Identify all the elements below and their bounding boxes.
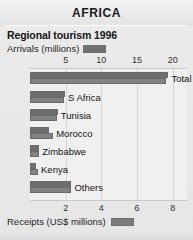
page-title: AFRICA [0,6,193,20]
card-header: AFRICA [0,0,193,26]
chart-row-label: Zimbabwe [42,146,86,157]
bar-receipts [30,151,39,157]
bar-receipts [30,115,57,121]
legend-arrivals-label: Arrivals (millions) [7,43,79,54]
chart-row: Others [30,181,187,195]
bar-receipts [30,78,166,84]
receipts-swatch-icon [111,218,134,226]
chart-row-label: Total [171,73,191,84]
card-footer-strip [0,231,193,240]
axis-top-tick: 15 [132,55,142,65]
axis-top-tick: 10 [96,55,106,65]
legend-receipts-label: Receipts (US$ millions) [7,216,106,227]
arrivals-swatch-icon [83,45,106,53]
axis-bottom-tick: 4 [99,203,104,213]
chart-row: Tunisia [30,109,187,123]
axis-top-tick: 5 [63,55,68,65]
chart-row-label: S Africa [68,92,101,103]
chart-row-label: Kenya [41,164,68,175]
axis-top-tick: 20 [168,55,178,65]
chart-row: Total [30,72,187,86]
axis-bottom-tick: 6 [135,203,140,213]
chart-row: S Africa [30,91,187,105]
bar-receipts [30,97,64,103]
legend-receipts: Receipts (US$ millions) [7,216,134,227]
chart-row: Kenya [30,163,187,177]
bar-receipts [30,187,71,193]
chart-row-label: Others [74,182,103,193]
chart-row: Morocco [30,127,187,141]
axis-bottom: 2468 [30,203,187,215]
chart-plot-area: TotalS AfricaTunisiaMoroccoZimbabweKenya… [30,68,187,201]
chart-row-label: Tunisia [61,110,91,121]
axis-top: 5101520 [30,55,187,67]
bar-receipts [30,169,38,175]
axis-bottom-tick: 2 [63,203,68,213]
chart-row-label: Morocco [56,128,92,139]
chart-row: Zimbabwe [30,145,187,159]
header-divider [6,25,187,26]
axis-bottom-tick: 8 [170,203,175,213]
chart-subtitle: Regional tourism 1996 [7,29,117,41]
legend-arrivals: Arrivals (millions) [7,43,106,54]
infographic-card: AFRICA Regional tourism 1996 Arrivals (m… [0,0,193,240]
bar-receipts [30,133,53,139]
